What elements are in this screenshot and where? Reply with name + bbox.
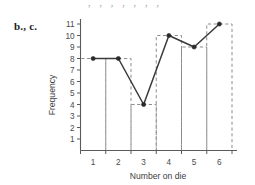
y-tick-label: 8	[70, 55, 75, 64]
histogram-bar-outline	[182, 47, 207, 151]
histogram-bar-outline	[131, 105, 156, 151]
data-point-marker	[217, 22, 221, 26]
y-tick-label: 10	[65, 32, 75, 41]
data-point-marker	[167, 33, 171, 37]
x-axis-title: Number on die	[130, 171, 187, 181]
x-axis: 123456	[81, 151, 238, 167]
x-tick-label: 4	[167, 158, 172, 167]
x-tick-label: 2	[116, 158, 121, 167]
data-point-marker	[116, 56, 120, 60]
y-axis-title: Frequency	[47, 74, 57, 115]
data-point-marker	[91, 56, 95, 60]
figure-container: , , , , , , , b., c. 1234567891011 12345…	[0, 0, 255, 185]
y-tick-label: 1	[70, 135, 75, 144]
x-axis-tick-labels: 123456	[91, 158, 222, 167]
y-tick-label: 2	[70, 124, 75, 133]
y-tick-label: 6	[70, 78, 75, 87]
frequency-polygon-series	[91, 22, 221, 107]
y-tick-label: 7	[70, 66, 75, 75]
y-tick-label: 9	[70, 43, 75, 52]
y-axis-tick-labels: 1234567891011	[65, 20, 75, 144]
x-tick-label: 3	[141, 158, 146, 167]
series-data-markers	[91, 22, 221, 107]
histogram-dashed-outlines	[81, 24, 233, 151]
y-tick-label: 4	[70, 101, 75, 110]
y-tick-label: 11	[66, 20, 75, 29]
frequency-polygon-chart: 1234567891011 123456 Number on die Frequ…	[0, 0, 255, 185]
histogram-bar-outline	[207, 24, 232, 151]
histogram-bar-outline	[106, 59, 131, 151]
data-point-marker	[142, 102, 146, 106]
x-tick-label: 6	[217, 158, 222, 167]
y-axis: 1234567891011	[65, 19, 80, 151]
histogram-bar-outline	[156, 36, 181, 151]
y-tick-label: 3	[70, 112, 75, 121]
data-point-marker	[192, 45, 196, 49]
y-tick-label: 5	[70, 89, 75, 98]
x-tick-label: 5	[192, 158, 197, 167]
histogram-bar-outline	[81, 59, 106, 151]
x-tick-label: 1	[91, 158, 96, 167]
